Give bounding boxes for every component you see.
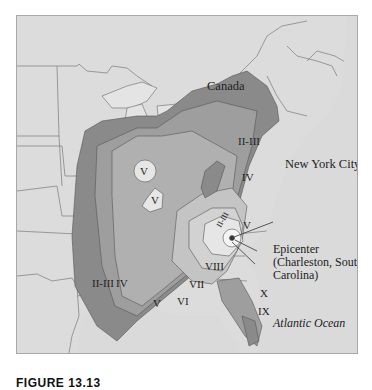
zone-label-viii: VIII — [205, 261, 224, 272]
zone-label-iv-west: IV — [116, 278, 128, 289]
label-atlantic-ocean: Atlantic Ocean — [273, 317, 345, 329]
zone-label-v-circle1: V — [140, 166, 148, 177]
label-gulf-of-mexico: Gulf of Mexico — [115, 352, 187, 354]
zone-label-v-south: V — [153, 298, 161, 309]
label-epicenter: Epicenter (Charleston, South Carolina) — [273, 243, 358, 282]
zone-label-v-circle2: V — [151, 195, 159, 206]
zone-label-iv-north: IV — [242, 172, 254, 183]
label-new-york-city: New York City — [285, 158, 358, 171]
zone-label-x: X — [260, 288, 268, 299]
atlantic-ocean-area — [242, 16, 357, 353]
figure-caption: FIGURE 13.13 — [16, 376, 101, 390]
figure-label: FIGURE 13.13 — [16, 376, 101, 390]
zone-label-v-east: V — [243, 220, 251, 231]
zone-label-vi: VI — [177, 296, 189, 307]
zone-label-vii: VII — [189, 279, 204, 290]
zone-label-ii-iii-north: II-III — [238, 136, 260, 147]
zone-label-ix: IX — [258, 306, 270, 317]
map-frame: Canada New York City Atlantic Ocean Gulf… — [16, 15, 358, 354]
zone-label-ii-iii-west: II-III — [92, 278, 114, 289]
intensity-zones — [72, 71, 279, 346]
label-canada: Canada — [207, 80, 244, 93]
